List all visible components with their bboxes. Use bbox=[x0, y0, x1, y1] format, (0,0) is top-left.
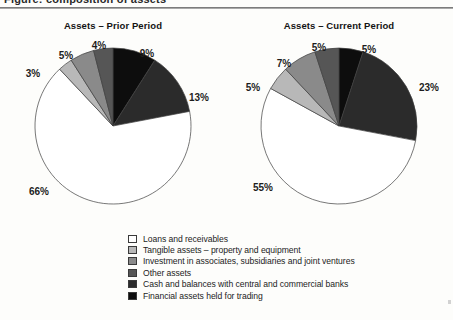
legend-swatch-icon bbox=[128, 235, 137, 243]
legend-item-label: Cash and balances with central and comme… bbox=[143, 279, 348, 289]
chart-title-current: Assets – Current Period bbox=[226, 20, 452, 31]
legend-item: Cash and balances with central and comme… bbox=[128, 279, 428, 290]
legend-item-label: Other assets bbox=[143, 268, 191, 278]
legend-swatch-icon bbox=[128, 280, 137, 288]
legend-item: Other assets bbox=[128, 267, 428, 278]
legend-item: Financial assets held for trading bbox=[128, 290, 428, 301]
pie-slice-label: 7% bbox=[277, 58, 292, 69]
scan-top-text: Figure: composition of assets bbox=[0, 0, 453, 5]
pie-slice-label: 5% bbox=[312, 42, 327, 53]
pie-chart-prior: 9%13%66%3%5%4% bbox=[0, 34, 226, 230]
chart-panel-prior: Assets – Prior Period 9%13%66%3%5%4% bbox=[0, 12, 226, 232]
pie-slice-label: 3% bbox=[26, 68, 41, 79]
header-rule bbox=[0, 7, 453, 9]
pie-slice-label: 5% bbox=[246, 82, 261, 93]
pie-slice-label: 13% bbox=[189, 92, 209, 103]
legend-item: Loans and receivables bbox=[128, 233, 428, 244]
pie-chart-current: 5%23%55%5%7%5% bbox=[226, 34, 452, 230]
legend-swatch-icon bbox=[128, 257, 137, 265]
pie-svg-current: 5%23%55%5%7%5% bbox=[239, 34, 439, 214]
pie-slice-label: 23% bbox=[419, 82, 439, 93]
legend-swatch-icon bbox=[128, 246, 137, 254]
legend-swatch-icon bbox=[128, 269, 137, 277]
pie-slice-label: 5% bbox=[59, 50, 74, 61]
legend-item: Tangible assets – property and equipment bbox=[128, 244, 428, 255]
legend-swatch-icon bbox=[128, 292, 137, 300]
legend-item-label: Financial assets held for trading bbox=[143, 291, 263, 301]
pie-svg-prior: 9%13%66%3%5%4% bbox=[13, 34, 213, 214]
pie-slice-label: 5% bbox=[362, 44, 377, 55]
legend-item-label: Tangible assets – property and equipment bbox=[143, 245, 301, 255]
legend-item: Investment in associates, subsidiaries a… bbox=[128, 256, 428, 267]
pie-slice-label: 55% bbox=[253, 182, 273, 193]
legend-item-label: Investment in associates, subsidiaries a… bbox=[143, 256, 355, 266]
chart-panel-current: Assets – Current Period 5%23%55%5%7%5% bbox=[226, 12, 452, 232]
pie-slice-label: 66% bbox=[29, 186, 49, 197]
scan-edge-artifact bbox=[448, 300, 451, 304]
chart-title-prior: Assets – Prior Period bbox=[0, 20, 226, 31]
pie-slice-label: 4% bbox=[92, 40, 107, 51]
legend-item-label: Loans and receivables bbox=[143, 234, 228, 244]
pie-slice-label: 9% bbox=[140, 48, 155, 59]
scan-top-text-fragment: Figure: composition of assets bbox=[0, 0, 453, 7]
chart-legend: Loans and receivablesTangible assets – p… bbox=[128, 233, 428, 301]
